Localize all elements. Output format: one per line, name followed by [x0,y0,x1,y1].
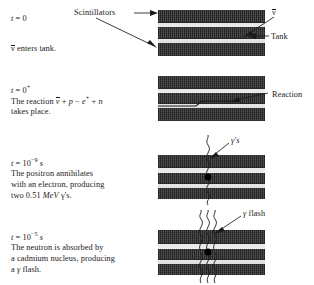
figure-antineutrino-detection: t = 0 ν enters tank. Scintillators Tank … [0,0,314,285]
panel-3: t = 10−9 s The positron annihilates with… [0,134,314,207]
panel-2: t = 0+ The reaction ν + p − e+ + n takes… [0,68,314,134]
arrow-reaction [230,97,240,102]
panel-3-overlay [0,134,314,207]
panel-2-overlay [0,68,314,134]
arrow-scintillators-bottom [147,40,157,48]
panel-1: t = 0 ν enters tank. Scintillators Tank … [0,0,314,68]
annihilation-point [205,174,212,181]
panel-4-overlay [0,207,314,285]
neutron-capture-point [205,249,212,256]
arrow-scintillators-top [150,10,158,16]
arrow-gammas [209,152,219,159]
panel-4: t = 10−5 s The neutron is absorbed by a … [0,207,314,285]
panel-1-leaders [0,0,314,68]
